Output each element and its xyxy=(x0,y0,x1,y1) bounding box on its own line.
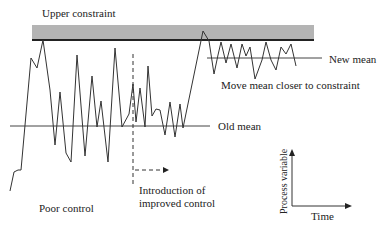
axis-y-label: Process variable xyxy=(278,149,289,214)
move-mean-label: Move mean closer to constraint xyxy=(221,79,360,91)
upper-constraint-band xyxy=(32,25,314,40)
upper-constraint-label: Upper constraint xyxy=(42,7,116,19)
axis-x-arrow-icon xyxy=(345,203,352,209)
intro-arrow-head-icon xyxy=(163,167,169,173)
introduction-label-line1: Introduction of xyxy=(139,184,205,196)
introduction-label-line2: improved control xyxy=(139,197,215,209)
process-signal-trace xyxy=(10,31,296,191)
poor-control-label: Poor control xyxy=(39,202,94,214)
new-mean-label: New mean xyxy=(329,53,376,65)
old-mean-label: Old mean xyxy=(218,120,261,132)
axis-x-label: Time xyxy=(311,210,334,222)
axis-y-arrow-icon xyxy=(289,149,295,156)
